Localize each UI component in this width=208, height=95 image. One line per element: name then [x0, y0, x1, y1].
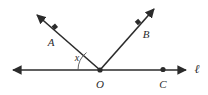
label-point-b: B — [143, 29, 150, 40]
label-line-l: ℓ — [195, 63, 200, 75]
geometry-figure: A B C O x ℓ — [0, 0, 208, 95]
label-point-c: C — [159, 79, 166, 90]
ray-ob — [100, 9, 154, 70]
point-marker-c — [160, 67, 165, 72]
point-marker-o — [97, 67, 102, 72]
ray-oa — [37, 15, 100, 70]
label-angle-x: x — [75, 53, 79, 63]
label-point-a: A — [48, 37, 55, 48]
label-point-o: O — [96, 79, 104, 90]
